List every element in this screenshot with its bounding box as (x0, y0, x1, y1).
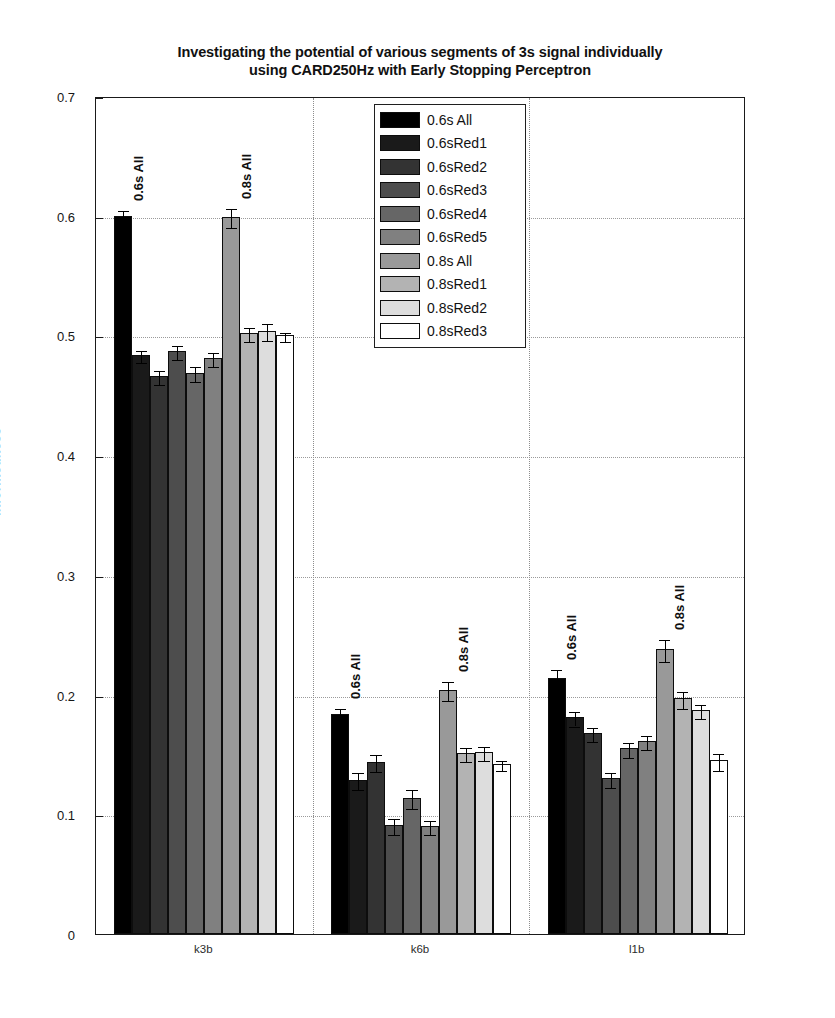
legend-item[interactable]: 0.8s All (380, 249, 521, 273)
y-axis-tick-label: 0.2 (29, 688, 75, 703)
bar-value-annotation: 0.6s All (348, 653, 363, 698)
legend-swatch (380, 135, 420, 151)
legend-label: 0.6s All (427, 112, 472, 128)
legend-item[interactable]: 0.6sRed1 (380, 132, 521, 156)
chart-legend[interactable]: 0.6s All0.6sRed10.6sRed20.6sRed30.6sRed4… (374, 104, 526, 348)
legend-swatch (380, 300, 420, 316)
legend-item[interactable]: 0.8sRed1 (380, 273, 521, 297)
legend-label: 0.6sRed4 (427, 206, 487, 222)
x-axis-tick-label: k6b (411, 943, 430, 955)
legend-item[interactable]: 0.8sRed3 (380, 320, 521, 344)
figure-canvas: Investigating the potential of various s… (0, 0, 835, 1018)
bar-value-annotation: 0.6s All (564, 615, 579, 660)
legend-swatch (380, 323, 420, 339)
legend-label: 0.8s All (427, 253, 472, 269)
legend-item[interactable]: 0.6sRed3 (380, 179, 521, 203)
legend-swatch (380, 112, 420, 128)
x-axis-tick-label: k3b (194, 943, 213, 955)
legend-swatch (380, 182, 420, 198)
legend-item[interactable]: 0.8sRed2 (380, 296, 521, 320)
legend-item[interactable]: 0.6sRed5 (380, 226, 521, 250)
y-axis-tick-label: 0.6 (29, 209, 75, 224)
legend-label: 0.6sRed5 (427, 229, 487, 245)
chart-title: Investigating the potential of various s… (95, 44, 745, 79)
y-axis-label: Informedness (0, 427, 3, 516)
legend-swatch (380, 206, 420, 222)
legend-item[interactable]: 0.6s All (380, 108, 521, 132)
bar-value-annotation: 0.8s All (456, 627, 471, 672)
y-axis-tick-label: 0.4 (29, 449, 75, 464)
bar-value-annotation: 0.6s All (131, 155, 146, 200)
y-axis-tick-label: 0 (29, 928, 75, 943)
bar-value-annotation: 0.8s All (239, 154, 254, 199)
legend-swatch (380, 276, 420, 292)
y-axis-tick-label: 0.1 (29, 808, 75, 823)
legend-label: 0.6sRed2 (427, 159, 487, 175)
legend-swatch (380, 159, 420, 175)
legend-label: 0.6sRed3 (427, 182, 487, 198)
legend-label: 0.6sRed1 (427, 135, 487, 151)
y-axis-tick-label: 0.3 (29, 568, 75, 583)
chart-title-line-1: Investigating the potential of various s… (95, 44, 745, 62)
legend-label: 0.8sRed2 (427, 300, 487, 316)
x-axis-tick-label: l1b (629, 943, 644, 955)
legend-swatch (380, 253, 420, 269)
legend-item[interactable]: 0.6sRed4 (380, 202, 521, 226)
bar-value-annotation: 0.8s All (672, 585, 687, 630)
y-axis-tick-label: 0.7 (29, 90, 75, 105)
legend-label: 0.8sRed1 (427, 276, 487, 292)
legend-label: 0.8sRed3 (427, 323, 487, 339)
legend-item[interactable]: 0.6sRed2 (380, 155, 521, 179)
chart-title-line-2: using CARD250Hz with Early Stopping Perc… (95, 62, 745, 80)
y-axis-tick-label: 0.5 (29, 329, 75, 344)
legend-swatch (380, 229, 420, 245)
